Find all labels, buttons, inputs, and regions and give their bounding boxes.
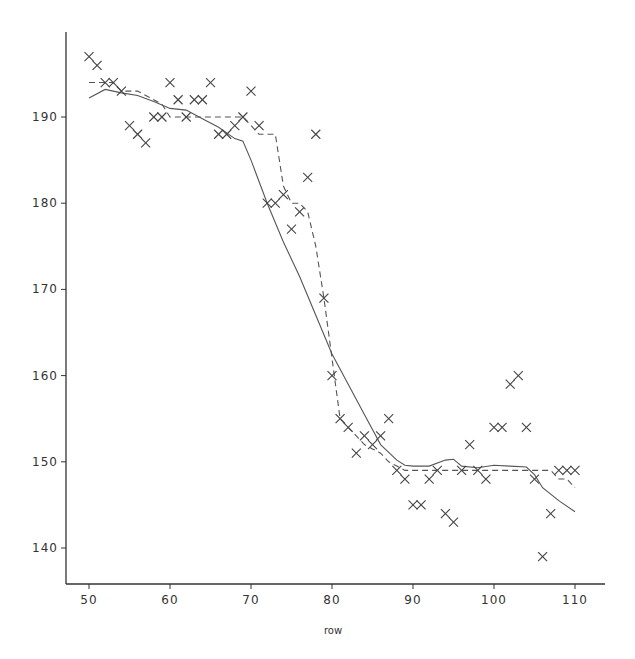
data-point-x-marker [311,130,320,139]
data-point-x-marker [157,113,166,122]
data-point-x-marker [149,113,158,122]
data-point-x-marker [279,190,288,199]
data-point-x-marker [222,130,231,139]
data-point-x-marker [465,440,474,449]
data-point-x-marker [303,173,312,182]
data-point-x-marker [449,518,458,527]
data-point-x-marker [206,78,215,87]
data-point-x-marker [141,138,150,147]
data-point-x-marker [352,449,361,458]
data-point-x-marker [571,466,580,475]
x-tick-label: 90 [404,593,421,607]
data-point-x-marker [538,552,547,561]
data-point-x-marker [295,207,304,216]
data-point-x-marker [490,423,499,432]
chart: 5060708090100110140150160170180190 row [0,0,635,659]
data-point-x-marker [271,199,280,208]
data-point-x-marker [400,475,409,484]
x-tick-label: 50 [80,593,97,607]
data-point-x-marker [392,466,401,475]
data-point-x-marker [93,61,102,70]
data-point-x-marker [117,87,126,96]
y-tick-label: 170 [32,282,58,296]
axes: 5060708090100110140150160170180190 [32,32,605,607]
data-point-x-marker [506,380,515,389]
data-point-x-marker [344,423,353,432]
data-point-x-marker [230,121,239,130]
y-tick-label: 160 [32,369,58,383]
data-point-x-marker [174,95,183,104]
data-point-x-marker [417,500,426,509]
x-tick-label: 70 [242,593,259,607]
x-tick-label: 100 [481,593,507,607]
data-point-x-marker [498,423,507,432]
data-point-x-marker [562,466,571,475]
data-point-x-marker [522,423,531,432]
data-point-x-marker [125,121,134,130]
data-point-x-marker [360,431,369,440]
data-point-x-marker [255,121,264,130]
data-point-x-marker [554,466,563,475]
data-point-x-marker [368,440,377,449]
data-point-x-marker [409,500,418,509]
data-point-x-marker [328,371,337,380]
data-point-x-marker [263,199,272,208]
data-point-x-marker [481,475,490,484]
data-point-x-marker [166,78,175,87]
data-point-x-marker [133,130,142,139]
x-tick-label: 80 [323,593,340,607]
data-point-x-marker [190,95,199,104]
y-tick-label: 150 [32,455,58,469]
data-point-x-marker [384,414,393,423]
data-point-x-marker [441,509,450,518]
smooth-fit-line [89,89,575,511]
data-point-x-marker [287,225,296,234]
data-point-x-marker [85,52,94,61]
x-tick-label: 110 [562,593,588,607]
data-point-x-marker [425,475,434,484]
data-point-x-marker [247,87,256,96]
x-axis-title: row [324,625,342,636]
y-tick-label: 140 [32,541,58,555]
data-point-x-marker [198,95,207,104]
y-tick-label: 190 [32,110,58,124]
data-point-x-marker [514,371,523,380]
y-tick-label: 180 [32,196,58,210]
x-tick-label: 60 [161,593,178,607]
data-point-x-marker [214,130,223,139]
data-point-x-marker [546,509,555,518]
data-point-x-marker [376,431,385,440]
plot-area [85,52,580,561]
